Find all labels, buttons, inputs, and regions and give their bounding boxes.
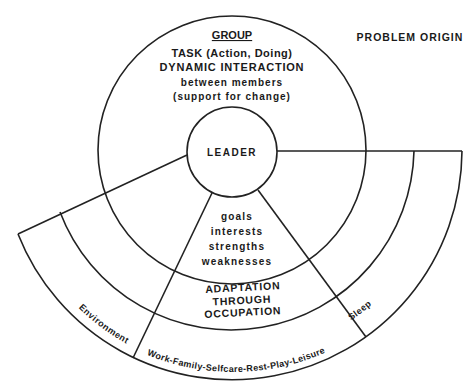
group-line-dynamic: DYNAMIC INTERACTION (160, 61, 305, 73)
problem-origin-label: PROBLEM ORIGIN (357, 31, 464, 43)
group-title: GROUP (212, 29, 252, 41)
sector-boundary-left (18, 155, 187, 234)
sleep-label: Sleep (346, 298, 373, 322)
individual-strengths: strengths (209, 241, 265, 252)
group-line-support: (support for change) (173, 91, 291, 102)
group-line-between: between members (181, 77, 283, 88)
environment-label: Environment (77, 302, 131, 346)
leader-label: LEADER (207, 147, 257, 158)
individual-interests: interests (211, 226, 264, 237)
individual-weaknesses: weaknesses (201, 256, 272, 267)
occupational-group-diagram: PROBLEM ORIGIN GROUP TASK (Action, Doing… (0, 0, 472, 392)
individual-goals: goals (221, 211, 253, 222)
group-line-task: TASK (Action, Doing) (172, 47, 293, 59)
radial-left (133, 193, 212, 358)
